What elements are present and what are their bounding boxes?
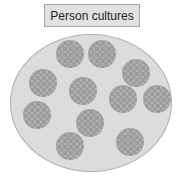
colony-circle <box>56 40 84 68</box>
colony-circle <box>122 59 150 87</box>
colony-circle <box>76 109 104 137</box>
colony-circle <box>23 101 51 129</box>
colony-circle <box>109 85 137 113</box>
colony-circle <box>69 77 97 105</box>
title-label: Person cultures <box>44 4 140 27</box>
colony-circle <box>88 40 116 68</box>
colony-circle <box>56 132 84 160</box>
colony-circle <box>143 85 171 113</box>
colony-circle <box>116 128 144 156</box>
colony-circle <box>29 69 57 97</box>
